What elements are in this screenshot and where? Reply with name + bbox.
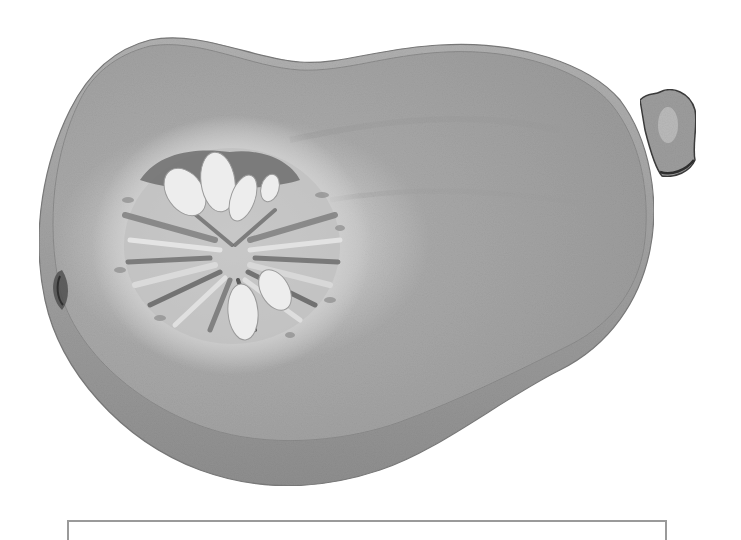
caption-box — [67, 520, 667, 540]
